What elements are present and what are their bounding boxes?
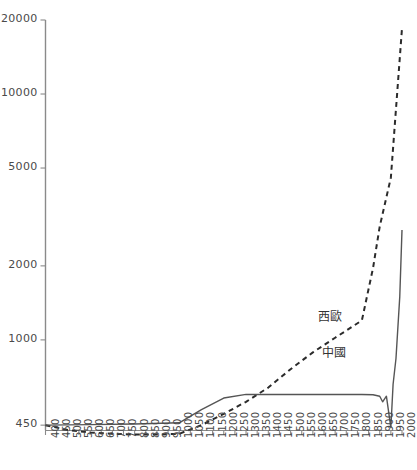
x-tick-label: 900 [161,418,172,438]
x-tick-label: 600 [94,418,105,438]
x-tick-label: 1250 [239,412,250,438]
x-tick-label: 450 [61,418,72,438]
series-label-china: 中國 [322,343,346,360]
x-tick-label: 1050 [194,412,205,438]
y-tick-marks [41,20,46,425]
x-tick-label: 1100 [205,412,216,438]
x-tick-label: 1650 [328,412,339,438]
y-tick-label: 10000 [1,86,38,99]
x-tick-label: 1750 [350,412,361,438]
x-tick-label: 1300 [250,412,261,438]
x-tick-label: 750 [127,418,138,438]
x-tick-label: 1000 [183,412,194,438]
x-tick-label: 550 [83,418,94,438]
x-tick-label: 1850 [373,412,384,438]
x-tick-label: 1450 [283,412,294,438]
x-tick-label: 400 [50,418,61,438]
series-label-western-europe: 西歐 [318,307,342,324]
x-tick-label: 700 [116,418,127,438]
y-tick-label: 5000 [8,160,37,173]
y-tick-label: 2000 [8,258,37,271]
x-tick-label: 1800 [361,412,372,438]
x-tick-label: 1700 [339,412,350,438]
x-tick-label: 950 [172,418,183,438]
x-tick-label: 1400 [272,412,283,438]
y-tick-label: 450 [16,417,38,430]
x-tick-label: 800 [139,418,150,438]
x-tick-label: 1950 [395,412,406,438]
x-tick-label: 1900 [384,412,395,438]
x-tick-label: 650 [105,418,116,438]
data-series-group [46,28,403,434]
x-tick-label: 1350 [261,412,272,438]
x-tick-label: 1200 [228,412,239,438]
y-tick-label: 20000 [1,12,38,25]
x-tick-label: 1600 [317,412,328,438]
x-tick-label: 2000 [406,412,417,438]
x-tick-label: 850 [150,418,161,438]
x-tick-label: 1500 [295,412,306,438]
x-tick-label: 1150 [217,412,228,438]
x-tick-label: 1550 [306,412,317,438]
axes-group [46,20,403,431]
y-tick-label: 1000 [8,332,37,345]
x-tick-label: 500 [72,418,83,438]
series-line-western-europe [46,28,403,434]
